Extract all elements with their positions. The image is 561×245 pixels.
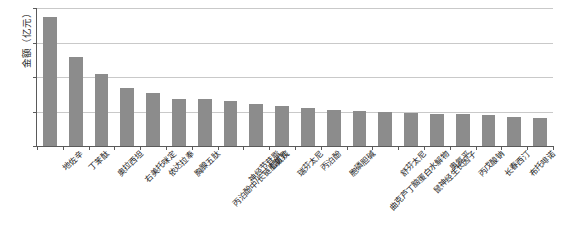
x-axis-label: 布托啡诺 bbox=[529, 150, 558, 179]
bar-slot bbox=[353, 8, 367, 146]
bar bbox=[353, 111, 367, 146]
bar bbox=[198, 99, 212, 146]
bar-slot bbox=[378, 8, 392, 146]
bar-slot bbox=[69, 8, 83, 146]
y-tick-mark-40 bbox=[33, 8, 37, 9]
bar-slot bbox=[224, 8, 238, 146]
x-axis-label: 长春西汀 bbox=[503, 150, 532, 179]
bar-slot bbox=[198, 8, 212, 146]
bar-slot bbox=[301, 8, 315, 146]
bar-slot bbox=[404, 8, 418, 146]
bar-slot bbox=[533, 8, 547, 146]
bar bbox=[507, 117, 521, 146]
bar-chart: 金额（亿元） 010203040 地佐辛丁苯酞奥拉西坦右美托咪定依达拉奉胸腺五肽… bbox=[0, 0, 561, 245]
x-axis-labels: 地佐辛丁苯酞奥拉西坦右美托咪定依达拉奉胸腺五肽丙泊酚中/长链脂肪乳神经节苷脂七氟… bbox=[37, 150, 553, 245]
x-axis-label: 胸腺五肽 bbox=[193, 150, 222, 179]
bar-slot bbox=[146, 8, 160, 146]
x-axis-label: 奥拉西坦 bbox=[116, 150, 145, 179]
bar bbox=[172, 99, 186, 146]
bar bbox=[95, 74, 109, 146]
bar-slot bbox=[43, 8, 57, 146]
bar bbox=[482, 115, 496, 146]
bar-slot bbox=[120, 8, 134, 146]
y-tick-mark-30 bbox=[33, 43, 37, 44]
x-axis-label: 丙戊酸钠 bbox=[477, 150, 506, 179]
bar-slot bbox=[249, 8, 263, 146]
bar-slot bbox=[327, 8, 341, 146]
bar bbox=[378, 112, 392, 146]
y-tick-mark-10 bbox=[33, 112, 37, 113]
bars-group bbox=[37, 8, 553, 146]
bar bbox=[456, 114, 470, 146]
bar-slot bbox=[507, 8, 521, 146]
bar bbox=[533, 118, 547, 146]
bar bbox=[327, 110, 341, 146]
x-axis-label: 胞磷胆碱 bbox=[348, 150, 377, 179]
bar bbox=[69, 57, 83, 146]
bar-slot bbox=[456, 8, 470, 146]
x-axis-label: 丁苯酞 bbox=[88, 150, 111, 173]
bar bbox=[146, 93, 160, 146]
x-tick-mark bbox=[553, 147, 554, 150]
bar-slot bbox=[275, 8, 289, 146]
plot-area: 010203040 bbox=[37, 8, 553, 146]
bar bbox=[430, 114, 444, 146]
bar bbox=[404, 113, 418, 146]
bar-slot bbox=[172, 8, 186, 146]
y-axis-title: 金额（亿元） bbox=[19, 0, 35, 88]
y-tick-mark-20 bbox=[33, 77, 37, 78]
bar-slot bbox=[95, 8, 109, 146]
bar-slot bbox=[482, 8, 496, 146]
bar bbox=[275, 106, 289, 146]
bar bbox=[249, 104, 263, 146]
bar bbox=[43, 17, 57, 146]
bar bbox=[224, 101, 238, 146]
bar bbox=[120, 88, 134, 146]
bar bbox=[301, 108, 315, 146]
bar-slot bbox=[430, 8, 444, 146]
x-axis-label: 地佐辛 bbox=[62, 150, 85, 173]
